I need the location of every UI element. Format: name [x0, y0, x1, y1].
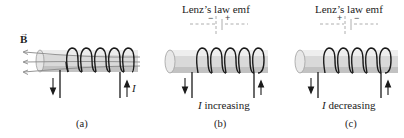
caption-b: (b) — [214, 118, 226, 130]
solenoid-diagram-b — [140, 0, 270, 138]
condition-label-b: I increasing — [198, 99, 250, 111]
iron-core — [295, 50, 398, 73]
coil-leads — [192, 72, 254, 98]
solenoid-diagram-c — [270, 0, 404, 138]
current-symbol: I — [322, 99, 326, 111]
current-down-arrow-icon — [183, 78, 188, 93]
current-up-arrow-icon — [386, 81, 391, 95]
current-up-arrow-icon — [259, 81, 264, 95]
panel-a: → B — [0, 0, 140, 138]
panel-c: Lenz’s law emf + − — [270, 0, 404, 138]
caption-c: (c) — [345, 118, 357, 130]
panel-b: Lenz’s law emf − + — [140, 0, 270, 138]
solenoid-with-field-diagram — [0, 0, 140, 138]
condition-text: increasing — [204, 99, 249, 111]
current-symbol: I — [198, 99, 202, 111]
coil-leads — [60, 70, 120, 98]
coil-leads — [318, 72, 381, 98]
current-down-arrow-icon — [309, 78, 314, 93]
current-label: I — [132, 82, 136, 94]
caption-a: (a) — [76, 118, 88, 130]
current-up-arrow-icon — [125, 81, 130, 97]
current-down-arrow-icon — [51, 78, 56, 94]
condition-text: decreasing — [328, 99, 375, 111]
condition-label-c: I decreasing — [322, 99, 375, 111]
